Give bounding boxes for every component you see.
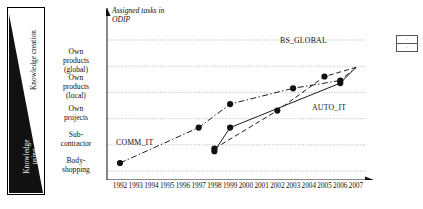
series-lines — [120, 67, 356, 163]
legend-mark-icon: – — [406, 45, 408, 49]
data-point — [227, 101, 233, 107]
data-point — [227, 125, 233, 131]
y-axis-category-list: Ownproducts(global)Ownproducts(local)Own… — [48, 0, 104, 209]
y-axis-category-label: Ownproducts(global) — [48, 47, 104, 74]
series-label-bs-global: BS_GLOBAL — [280, 36, 327, 45]
series-label-comm-it: COMM_IT — [116, 138, 153, 147]
data-point — [321, 73, 327, 79]
y-axis-category-label: Ownproducts(local) — [48, 73, 104, 100]
y-axis-category-label: Ownprojects — [48, 104, 104, 122]
x-axis-tick-label: 2007 — [343, 182, 369, 190]
x-axis-tick-labels: 1992199319941995199619971998199920002001… — [0, 182, 423, 198]
legend-mark-icon: – — [406, 37, 408, 41]
data-point — [117, 160, 123, 166]
chart-annotation: Assigned tasks in ODIP — [112, 6, 164, 25]
y-axis-category-label: Body-shopping — [48, 156, 104, 174]
data-point — [337, 80, 343, 86]
data-point — [196, 125, 202, 131]
figure-root: Knowledge creation Knowledgeusing Ownpro… — [0, 0, 423, 209]
y-axis-category-label: Sub-contractor — [48, 130, 104, 148]
axis-lines — [106, 8, 374, 180]
legend-box: – – — [396, 35, 418, 52]
plot-area — [106, 8, 374, 180]
series-line-comm_it — [120, 67, 356, 163]
series-label-auto-it: AUTO_IT — [312, 103, 346, 112]
knowledge-creation-label: Knowledge creation — [30, 14, 38, 106]
legend-row: – — [397, 44, 417, 52]
data-point — [274, 108, 280, 114]
knowledge-triangle-panel: Knowledge creation Knowledgeusing — [7, 7, 45, 195]
legend-row: – — [397, 36, 417, 44]
data-point — [290, 85, 296, 91]
chart-svg — [106, 8, 374, 180]
data-point — [211, 148, 217, 154]
